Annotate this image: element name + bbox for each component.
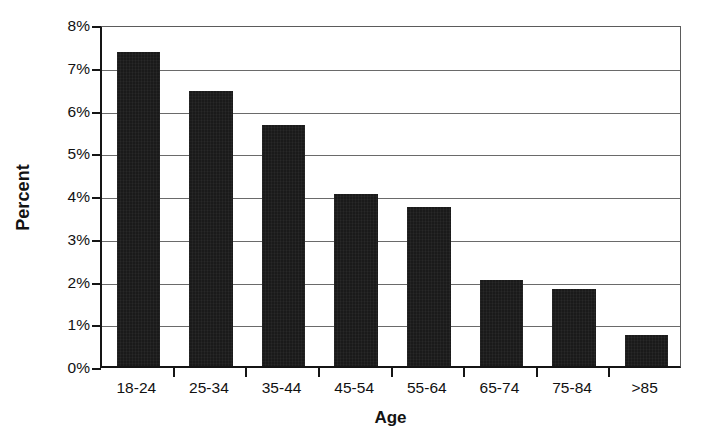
x-tick-mark (245, 368, 247, 377)
bar (334, 194, 378, 366)
plot-area (100, 26, 681, 368)
y-tick-label: 2% (68, 275, 90, 291)
y-tick-mark (92, 26, 101, 28)
bar (552, 289, 596, 366)
bar (407, 207, 451, 366)
y-tick-mark (92, 325, 101, 327)
y-tick-label: 6% (68, 104, 90, 120)
bar (262, 125, 306, 366)
bar (117, 52, 161, 366)
x-axis-title: Age (100, 408, 681, 428)
x-tick-label: 25-34 (189, 380, 229, 396)
y-tick-label: 5% (68, 147, 90, 163)
x-tick-label: >85 (632, 380, 658, 396)
x-axis-tick-marks (100, 368, 681, 380)
x-tick-mark (391, 368, 393, 377)
bar (480, 280, 524, 366)
y-tick-mark (92, 154, 101, 156)
x-tick-label: 75-84 (552, 380, 592, 396)
y-tick-mark (92, 197, 101, 199)
y-tick-label: 7% (68, 61, 90, 77)
x-tick-mark (536, 368, 538, 377)
y-tick-label: 1% (68, 318, 90, 334)
x-axis-tick-labels: 18-2425-3435-4445-5455-6465-7475-84>85 (100, 380, 681, 402)
y-tick-mark (92, 69, 101, 71)
x-tick-label: 45-54 (334, 380, 374, 396)
y-axis-title-text: Percent (13, 164, 34, 231)
x-tick-label: 55-64 (407, 380, 447, 396)
x-tick-label: 18-24 (116, 380, 156, 396)
x-tick-mark (173, 368, 175, 377)
x-tick-mark (608, 368, 610, 377)
y-tick-mark (92, 283, 101, 285)
bar (189, 91, 233, 366)
bar-chart-figure: Percent 0%1%2%3%4%5%6%7%8% 18-2425-3435-… (0, 0, 703, 448)
y-tick-label: 4% (68, 189, 90, 205)
y-tick-mark (92, 240, 101, 242)
bar-series (102, 27, 680, 366)
y-tick-label: 3% (68, 232, 90, 248)
y-tick-mark (92, 112, 101, 114)
y-axis-tick-labels: 0%1%2%3%4%5%6%7%8% (44, 26, 90, 368)
y-tick-label: 8% (68, 18, 90, 34)
x-tick-label: 65-74 (480, 380, 520, 396)
y-tick-label: 0% (68, 360, 90, 376)
y-tick-mark (92, 368, 101, 370)
bar (625, 335, 669, 366)
x-tick-mark (463, 368, 465, 377)
x-tick-mark (318, 368, 320, 377)
x-tick-label: 35-44 (262, 380, 302, 396)
y-axis-title: Percent (0, 0, 46, 394)
